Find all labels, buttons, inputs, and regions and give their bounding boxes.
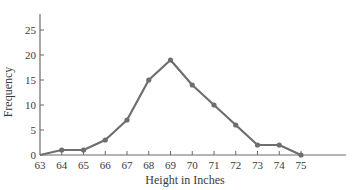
data-point-marker bbox=[277, 142, 282, 147]
data-point-marker bbox=[103, 137, 108, 142]
x-tick-label: 68 bbox=[143, 159, 155, 171]
y-tick-label: 20 bbox=[25, 49, 37, 61]
x-tick-label: 71 bbox=[209, 159, 220, 171]
x-tick-label: 65 bbox=[78, 159, 90, 171]
data-point-marker bbox=[233, 122, 238, 127]
x-tick-label: 64 bbox=[56, 159, 68, 171]
data-point-marker bbox=[211, 102, 216, 107]
x-tick-label: 72 bbox=[230, 159, 241, 171]
data-point-marker bbox=[168, 57, 173, 62]
y-tick-label: 15 bbox=[25, 74, 37, 86]
y-tick-label: 5 bbox=[31, 124, 37, 136]
x-tick-label: 75 bbox=[296, 159, 308, 171]
data-point-marker bbox=[298, 152, 303, 157]
y-tick-label: 25 bbox=[25, 24, 37, 36]
data-point-marker bbox=[255, 142, 260, 147]
x-tick-label: 66 bbox=[100, 159, 112, 171]
x-axis-ticks: 63646566676869707172737475 bbox=[35, 151, 308, 171]
x-tick-label: 73 bbox=[252, 159, 264, 171]
data-point-marker bbox=[124, 117, 129, 122]
x-tick-label: 70 bbox=[187, 159, 199, 171]
x-tick-label: 63 bbox=[35, 159, 47, 171]
x-tick-label: 67 bbox=[122, 159, 134, 171]
y-axis-label: Frequency bbox=[1, 67, 15, 118]
data-point-marker bbox=[81, 147, 86, 152]
x-axis-label: Height in Inches bbox=[145, 173, 225, 187]
data-point-marker bbox=[59, 147, 64, 152]
data-series bbox=[40, 57, 304, 157]
x-tick-label: 74 bbox=[274, 159, 286, 171]
data-point-marker bbox=[146, 77, 151, 82]
frequency-polygon-chart: 0510152025 63646566676869707172737475 He… bbox=[0, 0, 362, 190]
x-tick-label: 69 bbox=[165, 159, 177, 171]
data-point-marker bbox=[190, 82, 195, 87]
y-axis-ticks: 0510152025 bbox=[25, 24, 44, 161]
y-tick-label: 10 bbox=[25, 99, 37, 111]
frequency-line bbox=[40, 60, 301, 155]
